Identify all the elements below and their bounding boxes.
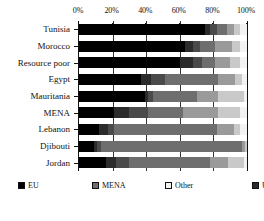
bar-segment (197, 91, 219, 102)
bar-segment (227, 24, 234, 35)
bar-segment (129, 107, 147, 118)
bar-segment (114, 107, 129, 118)
chart-bar-row (79, 104, 247, 121)
chart-bar-row (79, 71, 247, 88)
x-axis-tick-label: 100% (237, 6, 255, 16)
bar-segment (193, 57, 201, 68)
bar-segment (108, 124, 115, 135)
stacked-bar (79, 57, 247, 68)
bar-segment (235, 74, 242, 85)
legend-item: Other (165, 181, 252, 190)
bar-segment (180, 57, 193, 68)
legend-item-label: MENA (102, 181, 126, 190)
bar-segment (79, 24, 205, 35)
bar-segment (101, 141, 242, 152)
bar-segment (99, 124, 107, 135)
x-axis: 0%20%40%60%80%100% (0, 6, 264, 18)
bar-segment (183, 107, 218, 118)
y-axis-category-label: Lebanon (39, 124, 71, 135)
bar-segment (234, 124, 241, 135)
stacked-bar (79, 141, 247, 152)
y-axis-category-label: Djibouti (40, 141, 70, 152)
bar-segment (79, 41, 185, 52)
bar-segment (202, 57, 215, 68)
bar-segment (79, 74, 141, 85)
bar-segment (185, 41, 193, 52)
bar-segment (240, 124, 247, 135)
bar-segment (114, 124, 216, 135)
legend-swatch-icon (165, 182, 172, 189)
y-axis-category-label: Mauritania (31, 91, 71, 102)
bar-segment (141, 74, 151, 85)
bar-segment (245, 141, 247, 152)
x-axis-tick-label: 60% (172, 6, 186, 16)
bar-segment (240, 107, 247, 118)
bar-segment (148, 107, 183, 118)
stacked-bar (79, 157, 247, 168)
legend-item: EU (18, 181, 92, 190)
bar-segment (244, 91, 247, 102)
x-axis-tick-label: 0% (73, 6, 83, 16)
y-axis-category-label: MENA (44, 107, 71, 118)
stacked-bar (79, 74, 247, 85)
bar-segment (217, 24, 227, 35)
chart-bar-row (79, 54, 247, 71)
bar-segment (79, 141, 94, 152)
bar-segment (153, 91, 197, 102)
y-axis-category-label: Tunisia (43, 24, 70, 35)
bar-segment (232, 41, 240, 52)
bar-segment (244, 157, 247, 168)
bar-segment (240, 24, 247, 35)
legend-item: USA (252, 181, 264, 190)
y-axis-category-label: Morocco (38, 41, 71, 52)
legend-swatch-icon (252, 182, 259, 189)
stacked-bar (79, 91, 247, 102)
legend-item-label: USA (262, 181, 264, 190)
bar-segment (151, 74, 164, 85)
y-axis-category-label: Resource poor (18, 57, 70, 68)
chart-bar-row (79, 21, 247, 38)
bar-segment (79, 124, 99, 135)
chart-bar-row (79, 38, 247, 55)
bar-segment (234, 24, 241, 35)
legend-item-label: EU (28, 181, 39, 190)
bar-segment (228, 157, 243, 168)
y-axis-category-label: Egypt (49, 74, 71, 85)
bar-segment (240, 41, 247, 52)
bar-segment (79, 107, 114, 118)
bar-segment (79, 91, 145, 102)
stacked-bar-chart-figure: 0%20%40%60%80%100% TunisiaMoroccoResourc… (0, 0, 264, 221)
stacked-bar (79, 24, 247, 35)
stacked-bar (79, 107, 247, 118)
y-axis-category-labels: TunisiaMoroccoResource poorEgyptMauritan… (0, 21, 74, 171)
bar-segment (79, 157, 106, 168)
legend-item: MENA (92, 181, 165, 190)
chart-bar-row (79, 121, 247, 138)
chart-bar-row (79, 138, 247, 155)
stacked-bar (79, 41, 247, 52)
plot-area (78, 21, 248, 171)
chart-legend: EUMENAOtherUSABRICsOther AdvancedOther e… (18, 180, 252, 214)
bar-segment (210, 157, 228, 168)
stacked-bar (79, 124, 247, 135)
bar-segment (165, 74, 219, 85)
bar-segment (240, 57, 247, 68)
x-axis-tick-label: 80% (205, 6, 219, 16)
bar-segment (215, 57, 230, 68)
bar-segment (129, 157, 210, 168)
bar-segment (218, 107, 240, 118)
legend-item-label: Other (175, 181, 193, 190)
bar-segment (217, 124, 234, 135)
chart-bar-row (79, 88, 247, 105)
bar-segment (200, 41, 215, 52)
bar-segment (106, 157, 116, 168)
bar-segment (79, 57, 180, 68)
bar-segment (242, 74, 247, 85)
y-axis-category-label: Jordan (46, 157, 70, 168)
bar-segment (215, 41, 232, 52)
x-axis-tick-label: 40% (138, 6, 152, 16)
bar-segment (218, 74, 235, 85)
bar-segment (210, 24, 217, 35)
x-axis-tick-label: 20% (105, 6, 119, 16)
bar-segment (218, 91, 243, 102)
